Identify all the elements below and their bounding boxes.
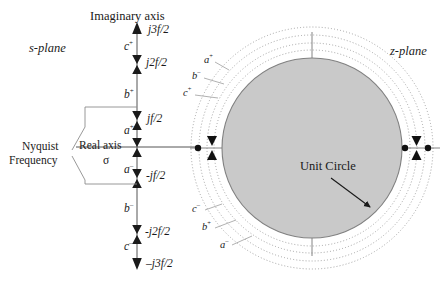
marker-dot-right-inner (402, 145, 408, 151)
imaginary-axis-label: Imaginary axis (90, 10, 165, 23)
s-band-sup-c-plus: + (129, 39, 133, 47)
z-ring-label-a-minus: a– (220, 238, 229, 250)
marker-dot-left-outer (195, 145, 201, 151)
unit-circle-label: Unit Circle (300, 160, 356, 173)
s-band-sup-b-minus: – (130, 201, 134, 209)
axis-tick-label-j2f2: j2f/2 (146, 57, 167, 69)
s-band-sup-a-plus: + (130, 123, 134, 131)
z-ring-sup-c-minus: – (197, 201, 200, 208)
axis-tick-label-j3f2: j3f/2 (148, 24, 169, 36)
s-band-label-b-plus: b+ (124, 88, 134, 100)
tick-marker-mj2f2-up (132, 235, 142, 244)
leader-c-minus-z (205, 204, 222, 210)
leader-a-plus-z (215, 62, 229, 70)
s-band-label-b-minus: b– (124, 202, 133, 214)
marker-dot-right-outer (425, 145, 431, 151)
s-band-label-a-plus: a+ (124, 124, 134, 136)
marker-triangle-right-up (412, 150, 422, 160)
z-plane-title: z-plane (390, 45, 427, 58)
axis-tick-label-mj3f2: –j3f/2 (146, 258, 173, 270)
z-ring-label-a-plus: a+ (204, 53, 213, 65)
leader-c-plus-z (195, 95, 218, 98)
tick-marker-origin-up (132, 148, 142, 157)
z-ring-sup-a-plus: + (209, 52, 213, 59)
nyquist-frequency-label-line1: Nyquist (22, 141, 58, 153)
z-ring-sup-a-minus: – (225, 237, 228, 244)
imaginary-axis-bottom-arrow (132, 258, 142, 270)
marker-triangle-left-up (207, 150, 217, 160)
axis-tick-label-mjf2: -jf/2 (146, 170, 165, 182)
nyquist-frequency-label-line2: Frequency (9, 155, 58, 167)
s-band-label-c-minus: c– (124, 240, 133, 252)
tick-marker-mj2f2-down (132, 225, 142, 234)
marker-triangle-right-down (412, 136, 422, 146)
z-ring-label-c-minus: c– (192, 202, 200, 214)
unit-circle (222, 58, 402, 238)
leader-a-minus-z (232, 236, 252, 245)
marker-triangle-left-down (207, 136, 217, 146)
leader-b-minus-z (204, 78, 224, 84)
axis-tick-label-jf2: jf/2 (147, 113, 162, 125)
tick-marker-mjf2-down (132, 169, 142, 178)
s-band-sup-c-minus: – (129, 239, 133, 247)
sigma-label: σ (103, 155, 109, 167)
real-axis-label: Real axis (79, 140, 121, 152)
axis-tick-label-mj2f2: -j2f/2 (145, 226, 170, 238)
tick-marker-origin-down (132, 138, 142, 147)
z-ring-label-c-plus: c+ (183, 86, 191, 98)
imaginary-axis-top-arrow (132, 22, 142, 34)
s-band-label-c-plus: c+ (124, 40, 133, 52)
tick-marker-j2f2-up (132, 65, 142, 74)
z-ring-sup-b-minus: – (197, 68, 200, 75)
s-band-sup-b-plus: + (130, 87, 134, 95)
z-ring-label-b-plus: b+ (202, 220, 211, 232)
z-ring-sup-c-plus: + (188, 85, 192, 92)
tick-marker-j2f2-down (132, 55, 142, 64)
tick-marker-mjf2-up (132, 179, 142, 188)
s-band-sup-a-minus: – (130, 162, 134, 170)
s-band-label-a-minus: a– (124, 163, 133, 175)
s-plane-title: s-plane (29, 42, 66, 55)
z-ring-sup-b-plus: + (207, 219, 211, 226)
z-plane-graphics (190, 27, 440, 269)
figure-s-plane-z-plane-mapping: Imaginary axis s-plane Nyquist Frequency… (0, 0, 448, 289)
tick-marker-jf2-down (132, 111, 142, 120)
z-ring-label-b-minus: b– (192, 69, 201, 81)
